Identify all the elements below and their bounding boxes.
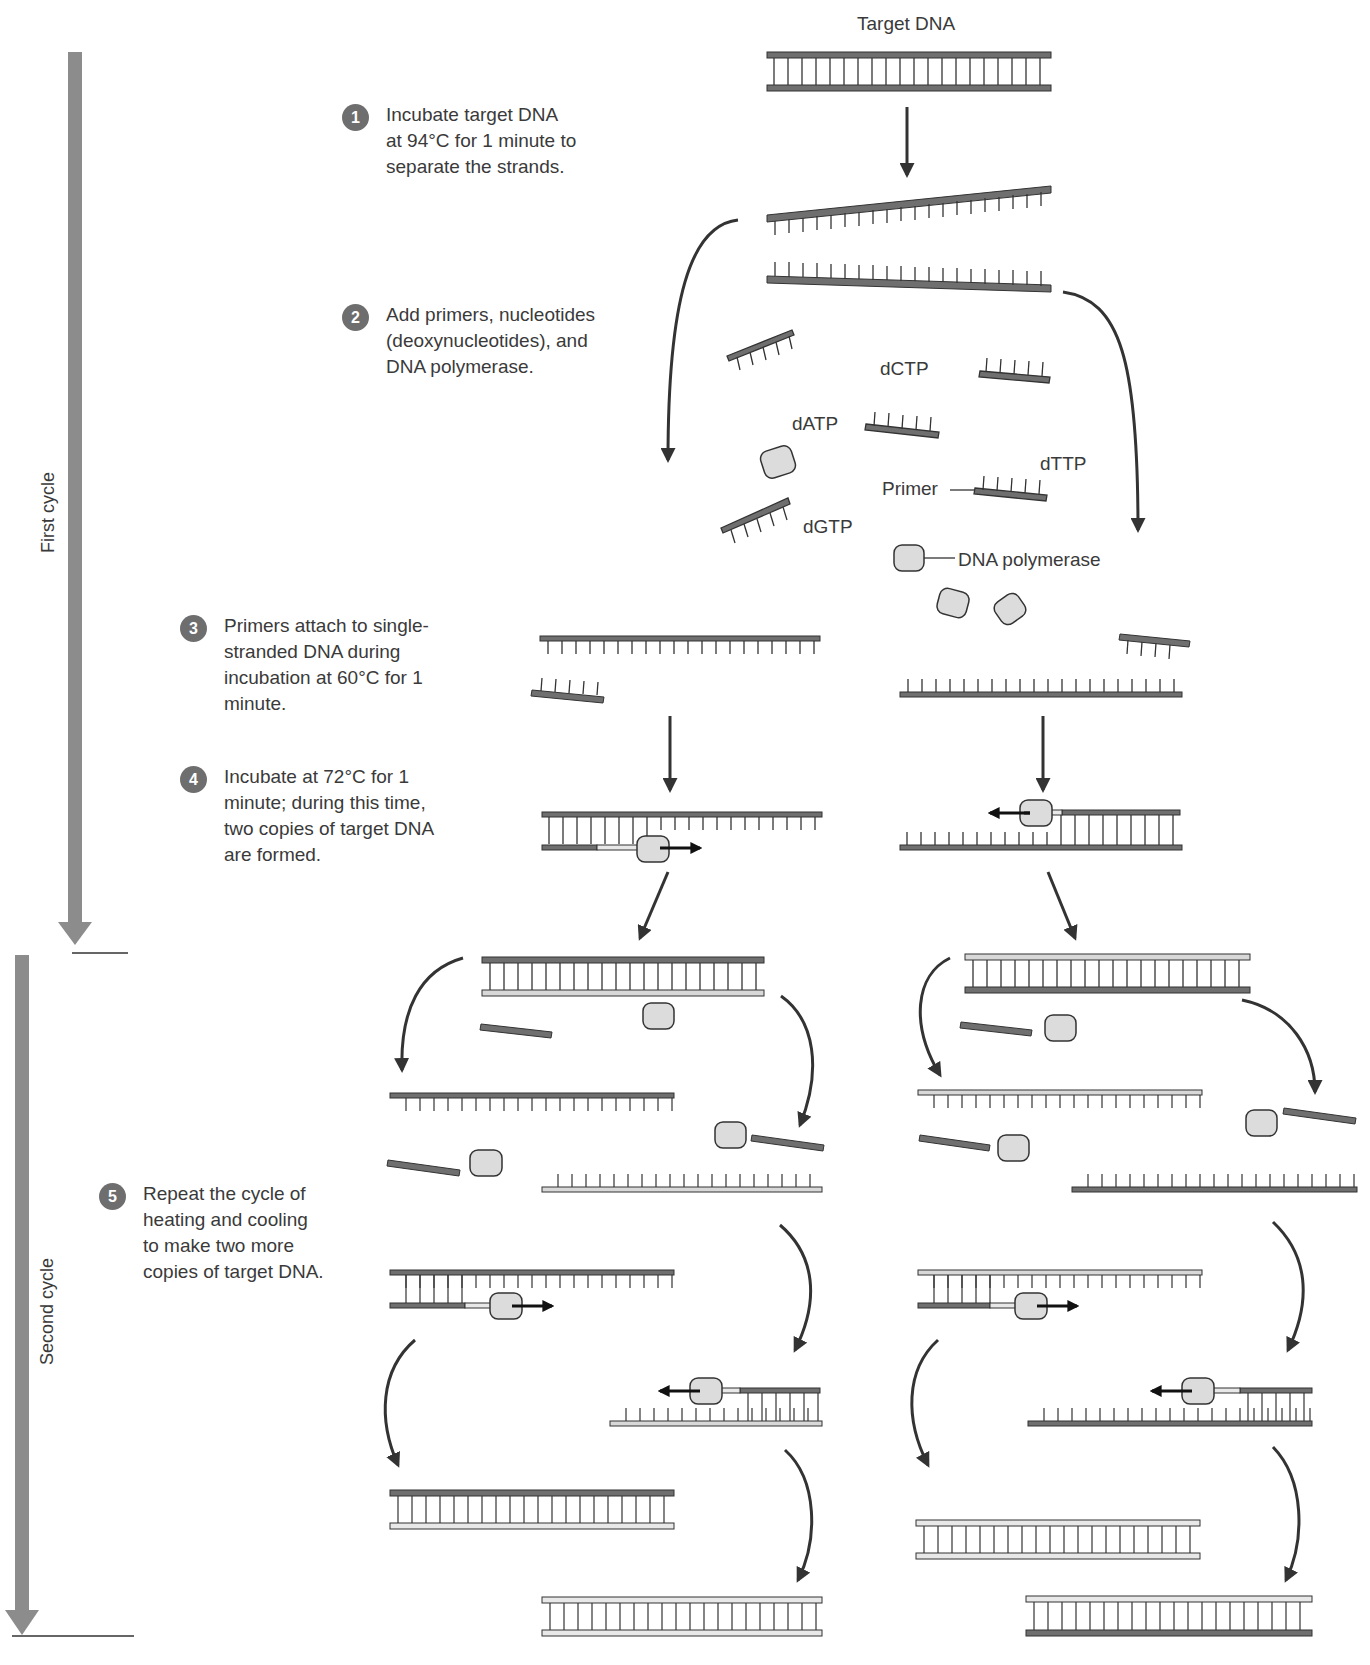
primer-fragment [387, 1160, 460, 1176]
arrow-curve [785, 1450, 812, 1580]
step-1-badge: 1 [342, 104, 369, 131]
primer-fragment [727, 330, 794, 370]
step-text-line: (deoxynucleotides), and [386, 328, 595, 354]
step-text-line: are formed. [224, 842, 434, 868]
arrow-to-copy-left [640, 872, 668, 938]
step-text-line: DNA polymerase. [386, 354, 595, 380]
second-cycle-label: Second cycle [37, 1258, 58, 1365]
step-text-line: at 94°C for 1 minute to [386, 128, 576, 154]
primer-fragment [1283, 1108, 1356, 1124]
primer-fragment [960, 1022, 1032, 1036]
primer-fragment [751, 1135, 824, 1151]
step-text-line: to make two more [143, 1233, 324, 1259]
dctp-label: dCTP [880, 358, 929, 379]
arrow-to-copy-right [1048, 872, 1075, 938]
dna-polymerase-icon [894, 545, 924, 571]
separated-strand-top [767, 186, 1051, 235]
step-text-line: Primers attach to single- [224, 613, 429, 639]
primer-fragment [974, 476, 1047, 501]
polymerase-label: DNA polymerase [958, 549, 1101, 570]
target-dna-double-strand [767, 52, 1051, 91]
step-text-line: two copies of target DNA [224, 816, 434, 842]
single-strand [390, 1090, 1357, 1192]
arrow-curve-right [1063, 292, 1138, 530]
first-cycle-arrow [58, 52, 128, 953]
step-text-line: minute. [224, 691, 429, 717]
arrow-curve [920, 958, 950, 1075]
step-5-badge: 5 [99, 1183, 126, 1210]
arrow-curve [402, 958, 463, 1070]
dgtp-label: dGTP [803, 516, 853, 537]
dna-polymerase-icon [643, 1003, 674, 1029]
step-2-text: Add primers, nucleotides (deoxynucleotid… [386, 302, 595, 380]
extension-right [900, 800, 1182, 850]
annealing-left [531, 636, 820, 703]
step-text-line: minute; during this time, [224, 790, 434, 816]
dna-polymerase-icon [715, 1122, 746, 1148]
dna-polymerase-icon [470, 1150, 502, 1176]
dna-polymerase-icon [758, 444, 797, 481]
step-text-line: copies of target DNA. [143, 1259, 324, 1285]
product-4 [1026, 1596, 1312, 1636]
step-text-line: heating and cooling [143, 1207, 324, 1233]
arrow-curve [912, 1340, 938, 1465]
extension-left [542, 812, 822, 862]
step-3-text: Primers attach to single- stranded DNA d… [224, 613, 429, 717]
step-4-badge: 4 [180, 766, 207, 793]
product-3 [542, 1597, 822, 1636]
arrow-curve [1242, 1000, 1315, 1092]
step-text-line: stranded DNA during [224, 639, 429, 665]
dna-polymerase-icon [935, 587, 971, 620]
product-2 [916, 1520, 1200, 1559]
arrow-curve [1273, 1222, 1303, 1350]
arrow-curve [781, 996, 813, 1125]
copy-right-double [965, 954, 1250, 993]
dna-polymerase-icon [1045, 1015, 1076, 1041]
separated-strand-bottom [767, 262, 1051, 292]
dna-polymerase-icon [991, 590, 1029, 627]
step-text-line: Add primers, nucleotides [386, 302, 595, 328]
target-dna-label: Target DNA [857, 13, 956, 34]
product-1 [390, 1490, 674, 1529]
annealing-right [900, 634, 1190, 697]
datp-label: dATP [792, 413, 838, 434]
step-text-line: Repeat the cycle of [143, 1181, 324, 1207]
arrow-curve [385, 1340, 415, 1465]
primer-fragment [865, 412, 939, 438]
step-text-line: Incubate target DNA [386, 102, 576, 128]
arrow-curve-left [668, 220, 738, 460]
primer-label: Primer [882, 478, 939, 499]
step-4-text: Incubate at 72°C for 1 minute; during th… [224, 764, 434, 868]
dna-polymerase-icon [998, 1135, 1029, 1161]
step-text-line: incubation at 60°C for 1 [224, 665, 429, 691]
dttp-label: dTTP [1040, 453, 1086, 474]
step-text-line: Incubate at 72°C for 1 [224, 764, 434, 790]
step-3-badge: 3 [180, 615, 207, 642]
step-1-text: Incubate target DNA at 94°C for 1 minute… [386, 102, 576, 180]
dna-polymerase-icon [1246, 1110, 1277, 1136]
step-5-text: Repeat the cycle of heating and cooling … [143, 1181, 324, 1285]
step-text-line: separate the strands. [386, 154, 576, 180]
copy-left-double [482, 957, 764, 996]
primer-fragment [480, 1024, 552, 1038]
arrow-curve [780, 1225, 811, 1350]
pcr-diagram: Target DNA dCTP dATP dTTP Primer dGTP DN… [0, 0, 1370, 1665]
second-cycle-arrow [5, 955, 134, 1636]
arrow-curve [1273, 1447, 1299, 1580]
primer-fragment [979, 358, 1050, 383]
first-cycle-label: First cycle [38, 472, 59, 553]
step-2-badge: 2 [342, 304, 369, 331]
primer-fragment [919, 1135, 990, 1151]
primer-fragment [721, 498, 790, 543]
